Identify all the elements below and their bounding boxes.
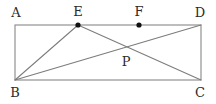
geometry-canvas: A E F D B C P: [0, 0, 216, 104]
label-a: A: [10, 5, 21, 20]
label-p: P: [122, 54, 131, 69]
segment-be: [15, 25, 78, 80]
label-b: B: [10, 85, 20, 100]
label-e: E: [73, 4, 83, 19]
point-dot-f: [136, 22, 141, 27]
label-c: C: [195, 85, 205, 100]
segment-ec: [78, 25, 201, 80]
segment-bd: [15, 25, 201, 80]
point-dot-e: [75, 22, 80, 27]
geometry-figure: A E F D B C P: [0, 0, 216, 104]
label-d: D: [195, 5, 205, 20]
label-f: F: [134, 4, 143, 19]
